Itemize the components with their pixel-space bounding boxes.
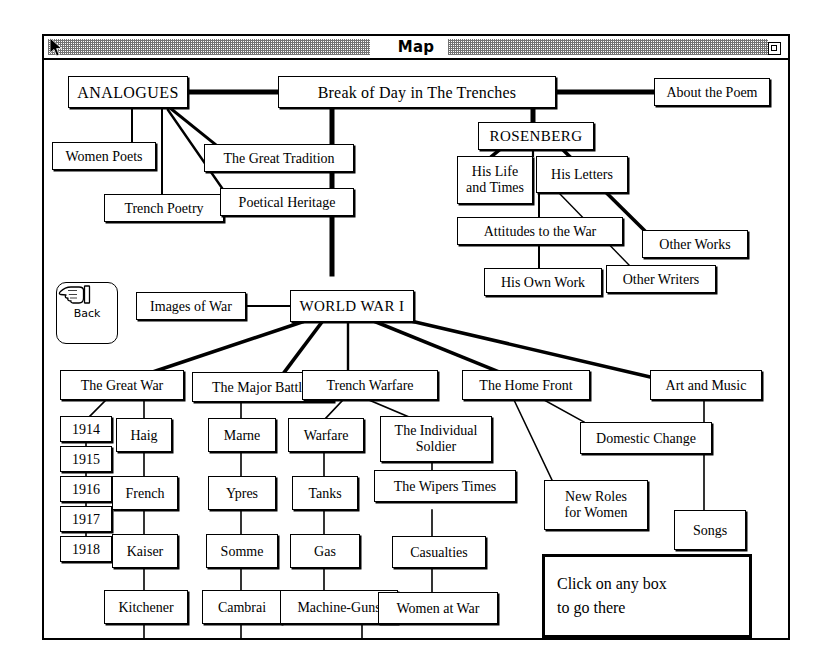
node-cambrai[interactable]: Cambrai [202, 590, 282, 624]
node-break-of-day[interactable]: Break of Day in The Trenches [278, 76, 556, 108]
node-french[interactable]: French [112, 476, 178, 510]
node-trench-warfare-box[interactable]: Trench Warfare [302, 370, 438, 400]
node-label: About the Poem [667, 85, 758, 100]
node-analogues[interactable]: ANALOGUES [68, 76, 188, 108]
node-label: Trench Poetry [124, 201, 203, 216]
node-label: Kaiser [127, 544, 164, 559]
node-marne[interactable]: Marne [208, 418, 276, 452]
node-art-and-music[interactable]: Art and Music [650, 370, 762, 400]
node-label: Poetical Heritage [239, 195, 336, 210]
window-title: Map [386, 38, 447, 56]
node-label: Casualties [410, 545, 468, 560]
node-the-home-front[interactable]: The Home Front [462, 370, 590, 400]
screen: Map [0, 0, 823, 670]
node-label-line1: New Roles [565, 489, 627, 505]
node-casualties[interactable]: Casualties [392, 536, 486, 568]
titlebar-stripes-left [48, 39, 370, 55]
node-poetical-heritage[interactable]: Poetical Heritage [220, 188, 354, 216]
node-his-letters[interactable]: His Letters [536, 156, 628, 193]
node-label: Ypres [226, 486, 258, 501]
node-1914[interactable]: 1914 [60, 416, 112, 442]
node-rosenberg[interactable]: ROSENBERG [478, 122, 594, 150]
zoom-box-icon[interactable] [768, 42, 781, 55]
node-label: Somme [221, 544, 264, 559]
node-the-individual-soldier[interactable]: The Individual Soldier [380, 416, 492, 462]
back-button[interactable]: Back [56, 282, 118, 344]
node-other-works[interactable]: Other Works [642, 230, 748, 258]
legend-line-1: Click on any box [557, 572, 737, 596]
node-world-war-i[interactable]: WORLD WAR I [290, 290, 414, 322]
node-label: Attitudes to the War [484, 224, 597, 239]
node-label: Haig [130, 428, 157, 443]
node-images-of-war[interactable]: Images of War [136, 292, 246, 320]
node-1915[interactable]: 1915 [60, 446, 112, 472]
node-label: ANALOGUES [77, 85, 178, 100]
node-label: French [126, 486, 165, 501]
node-label: Women Poets [65, 149, 142, 164]
node-label: Break of Day in The Trenches [318, 85, 517, 100]
node-other-writers[interactable]: Other Writers [606, 265, 716, 293]
node-kitchener[interactable]: Kitchener [104, 590, 188, 624]
node-warfare[interactable]: Warfare [288, 418, 364, 452]
node-1916[interactable]: 1916 [60, 476, 112, 502]
node-his-life-and-times[interactable]: His Life and Times [457, 156, 533, 204]
node-label: Cambrai [218, 600, 266, 615]
node-1917[interactable]: 1917 [60, 506, 112, 532]
node-label: Other Writers [623, 272, 700, 287]
node-label: The Major Battles [212, 380, 314, 395]
node-attitudes-to-the-war[interactable]: Attitudes to the War [457, 217, 623, 245]
map-canvas: ANALOGUES Break of Day in The Trenches A… [44, 60, 788, 638]
node-label: His Letters [551, 167, 613, 182]
node-the-great-war[interactable]: The Great War [60, 370, 184, 400]
node-tanks[interactable]: Tanks [292, 476, 358, 510]
node-somme[interactable]: Somme [206, 534, 278, 568]
node-label: Domestic Change [596, 431, 696, 446]
node-label-line2: for Women [565, 505, 628, 521]
node-label-line1: The Individual [395, 423, 478, 439]
map-window: Map [42, 34, 790, 640]
node-label: Other Works [659, 237, 730, 252]
node-trench-poetry[interactable]: Trench Poetry [104, 194, 224, 222]
node-label: ROSENBERG [490, 129, 583, 144]
legend-box: Click on any box to go there [542, 554, 752, 638]
node-his-own-work[interactable]: His Own Work [484, 268, 602, 296]
node-label: Songs [693, 523, 727, 538]
back-button-label: Back [74, 307, 101, 320]
node-label: Women at War [396, 601, 479, 616]
node-ypres[interactable]: Ypres [208, 476, 276, 510]
node-label: Marne [224, 428, 261, 443]
node-label: Images of War [150, 299, 232, 314]
node-women-at-war[interactable]: Women at War [378, 592, 498, 624]
legend-line-2: to go there [557, 596, 737, 620]
window-titlebar[interactable]: Map [44, 36, 788, 60]
node-label: The Wipers Times [394, 479, 497, 494]
node-label: 1917 [72, 512, 100, 527]
node-the-wipers-times[interactable]: The Wipers Times [374, 470, 516, 502]
node-label: 1918 [72, 542, 100, 557]
node-label-line1: His Life [472, 164, 518, 180]
node-label: The Home Front [479, 378, 572, 393]
node-label: Warfare [304, 428, 349, 443]
node-label: Gas [314, 544, 336, 559]
node-label: Art and Music [666, 378, 747, 393]
node-label: Trench Warfare [326, 378, 413, 393]
node-haig[interactable]: Haig [116, 418, 172, 452]
node-about-the-poem[interactable]: About the Poem [654, 78, 770, 106]
pointing-hand-left-icon [57, 283, 91, 305]
arrow-cursor-icon [50, 38, 64, 57]
node-label: WORLD WAR I [300, 299, 405, 314]
node-gas[interactable]: Gas [290, 534, 360, 568]
node-domestic-change[interactable]: Domestic Change [580, 422, 712, 454]
node-label: The Great Tradition [223, 151, 334, 166]
node-new-roles-for-women[interactable]: New Roles for Women [544, 480, 648, 530]
node-women-poets[interactable]: Women Poets [52, 142, 156, 170]
node-the-great-tradition[interactable]: The Great Tradition [204, 144, 354, 172]
node-label: His Own Work [501, 275, 585, 290]
titlebar-stripes-right [448, 39, 768, 55]
node-songs[interactable]: Songs [674, 510, 746, 550]
node-label-line2: and Times [466, 180, 524, 196]
node-label-line2: Soldier [416, 439, 456, 455]
node-label: 1914 [72, 422, 100, 437]
node-1918[interactable]: 1918 [60, 536, 112, 562]
node-kaiser[interactable]: Kaiser [112, 534, 178, 568]
